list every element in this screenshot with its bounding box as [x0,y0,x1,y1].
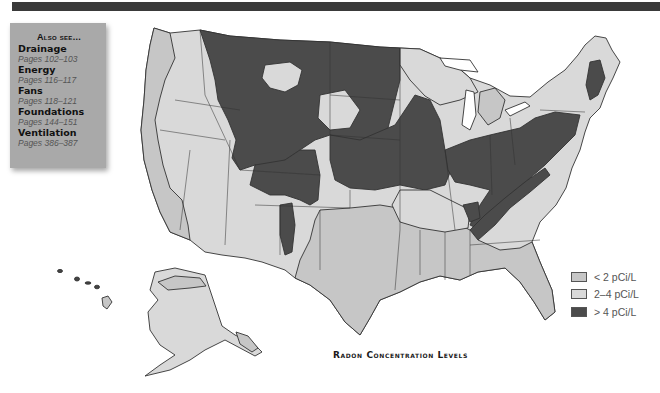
radon-map [0,0,660,393]
legend-label: < 2 pCi/L [594,271,636,283]
hawaii [58,269,113,309]
hawaii-island-maui [95,285,100,289]
legend-swatch-high [571,307,587,317]
legend-swatch-moderate [571,289,587,299]
us-radon-map-svg [0,0,660,393]
hawaii-island-molokai [85,282,91,284]
hawaii-island-kauai [58,269,63,272]
hawaii-island-big [102,296,112,309]
legend-label: > 4 pCi/L [594,306,636,318]
legend-item-moderate: 2–4 pCi/L [571,286,639,304]
map-title: Radon Concentration Levels [333,350,468,360]
legend-label: 2–4 pCi/L [594,288,639,300]
legend-item-high: > 4 pCi/L [571,303,639,321]
map-legend: < 2 pCi/L 2–4 pCi/L > 4 pCi/L [571,268,639,321]
map-region-alaska-panhandle-low [236,332,258,352]
alaska [145,268,262,376]
legend-swatch-low [571,272,587,282]
legend-item-low: < 2 pCi/L [571,268,639,286]
hawaii-island-oahu [75,277,80,281]
